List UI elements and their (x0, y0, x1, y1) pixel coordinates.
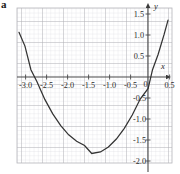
y-tick-label: -0.5 (133, 94, 146, 103)
x-tick-label: -2.5 (40, 81, 53, 90)
y-tick-label: -1.0 (133, 115, 146, 124)
x-axis-label: x (160, 61, 165, 71)
figure-label: a (1, 0, 7, 10)
x-tick-label: 0.5 (164, 81, 174, 90)
x-tick-label-origin: 0 (143, 80, 147, 89)
x-tick-label: -1.0 (103, 81, 116, 90)
x-tick-label: -2.0 (61, 81, 74, 90)
x-tick-label: -1.5 (82, 81, 95, 90)
y-tick-label: 1.0 (134, 31, 144, 40)
figure-container: a (0, 0, 180, 174)
x-tick-label: -0.5 (124, 81, 137, 90)
y-tick-label: 1.5 (134, 10, 144, 19)
y-tick-label: 0.5 (134, 52, 144, 61)
x-tick-label: -3.0 (19, 81, 32, 90)
y-axis-label: y (153, 1, 158, 11)
graph-svg: -3.0 -2.5 -2.0 -1.5 -1.0 -0.5 0 0.5 1.5 … (0, 0, 180, 174)
y-tick-label: -1.5 (133, 136, 146, 145)
y-tick-label: -2.0 (133, 157, 146, 166)
